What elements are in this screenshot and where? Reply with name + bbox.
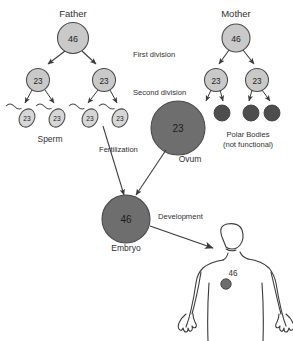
- mother-meiosis1-left-count: 23: [211, 77, 221, 86]
- polar-bodies-caption-line2: (not functional): [223, 140, 274, 149]
- embryo-count: 46: [120, 214, 132, 225]
- mother-parent-cell-count: 46: [231, 34, 241, 44]
- sperm-1-count: 23: [23, 115, 31, 122]
- body-cell-marker: [221, 279, 231, 289]
- mother-meiosis1-right-count: 23: [252, 77, 262, 86]
- fertilization-label: Fertilization: [99, 145, 138, 154]
- sperm-3-count: 23: [86, 115, 94, 122]
- development-label: Development: [158, 212, 204, 221]
- sperm-caption: Sperm: [37, 134, 62, 144]
- diagram-canvas: Father Mother First division Second divi…: [0, 0, 293, 341]
- father-parent-cell-count: 46: [68, 34, 78, 44]
- embryo-caption: Embryo: [111, 243, 141, 253]
- body-cell-count: 46: [228, 269, 238, 278]
- mother-title: Mother: [221, 8, 251, 19]
- polar-body-1: [214, 105, 230, 121]
- polar-body-3: [264, 105, 280, 121]
- ovum-count: 23: [172, 123, 184, 134]
- ovum-caption: Ovum: [179, 154, 202, 164]
- second-division-label: Second division: [133, 88, 186, 97]
- father-meiosis1-right-count: 23: [99, 77, 109, 86]
- father-title: Father: [59, 8, 86, 19]
- first-division-label: First division: [133, 50, 175, 59]
- father-meiosis1-left-count: 23: [33, 77, 43, 86]
- polar-bodies-caption-line1: Polar Bodies: [226, 130, 269, 139]
- polar-body-2: [243, 105, 259, 121]
- sperm-2-count: 23: [53, 115, 61, 122]
- sperm-4-count: 23: [116, 115, 124, 122]
- meiosis-fertilization-diagram: Father Mother First division Second divi…: [0, 0, 293, 341]
